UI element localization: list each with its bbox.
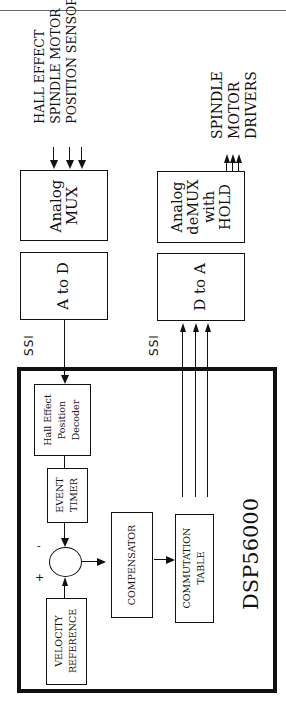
hall-effect-decoder-label: Hall Effect Position Decoder bbox=[41, 394, 83, 446]
dsp56000-label: DSP56000 bbox=[240, 498, 262, 610]
arrow-up-icon bbox=[236, 154, 242, 163]
output-line-3 bbox=[238, 162, 239, 171]
arrow-down-icon bbox=[78, 160, 86, 169]
decoder-label-2: Position bbox=[55, 394, 69, 446]
a-to-d-label: A to D bbox=[56, 262, 72, 309]
event-timer-label-1: EVENT bbox=[53, 477, 67, 512]
summer-to-compensator-line bbox=[82, 561, 98, 562]
ssi-label-input: SSI bbox=[23, 334, 36, 356]
arrow-right-icon bbox=[97, 558, 106, 566]
output-line-1 bbox=[226, 162, 227, 171]
output-label-line-3: DRIVERS bbox=[243, 71, 260, 139]
demux-label-2: deMUX bbox=[185, 179, 201, 234]
arrow-right-icon bbox=[166, 556, 175, 564]
summing-junction bbox=[49, 547, 82, 577]
output-line-2 bbox=[232, 162, 233, 171]
event-timer-label-2: TIMER bbox=[67, 477, 81, 512]
input-label-line-3: POSITION SENSOR bbox=[64, 0, 80, 124]
arrow-down-icon bbox=[61, 538, 69, 547]
arrow-down-icon bbox=[66, 160, 74, 169]
analog-mux-label-2: MUX bbox=[64, 180, 80, 233]
input-label-line-1: HALL EFFECT bbox=[32, 0, 48, 124]
demux-label-3: with bbox=[201, 179, 217, 234]
velocity-to-summer-line bbox=[64, 585, 65, 598]
commutation-table-label: COMMUTATION TABLE bbox=[180, 528, 208, 609]
arrow-up-icon bbox=[193, 323, 199, 332]
velocity-label-1: VELOCITY bbox=[52, 609, 66, 673]
analog-demux-label: Analog deMUX with HOLD bbox=[169, 179, 233, 234]
plus-sign: + bbox=[35, 571, 44, 584]
analog-mux-label: Analog MUX bbox=[48, 180, 80, 233]
ssi-label-output: SSI bbox=[148, 334, 161, 356]
minus-sign: - bbox=[37, 540, 41, 551]
velocity-reference-label: VELOCITY REFERENCE bbox=[52, 609, 80, 673]
commutation-label-2: TABLE bbox=[194, 528, 208, 609]
analog-mux-label-1: Analog bbox=[48, 180, 64, 233]
hall-sensor-input-label: HALL EFFECT SPINDLE MOTOR POSITION SENSO… bbox=[32, 0, 80, 124]
timer-to-summer-line bbox=[64, 523, 65, 539]
demux-label-1: Analog bbox=[169, 179, 185, 234]
d-to-a-label: D to A bbox=[193, 263, 209, 310]
commutation-label-1: COMMUTATION bbox=[180, 528, 194, 609]
spindle-motor-drivers-label: SPINDLE MOTOR DRIVERS bbox=[209, 71, 260, 139]
decoder-to-timer-line bbox=[64, 456, 65, 468]
output-label-line-2: MOTOR bbox=[226, 71, 243, 139]
decoder-label-1: Hall Effect bbox=[41, 394, 55, 446]
decoder-label-3: Decoder bbox=[69, 394, 83, 446]
compensator-label: COMPENSATOR bbox=[127, 525, 137, 606]
velocity-label-2: REFERENCE bbox=[66, 609, 80, 673]
input-label-line-2: SPINDLE MOTOR bbox=[48, 0, 64, 124]
arrow-down-icon bbox=[50, 160, 58, 169]
arrow-up-icon bbox=[62, 577, 68, 586]
event-timer-label: EVENT TIMER bbox=[53, 477, 81, 512]
output-label-line-1: SPINDLE bbox=[209, 71, 226, 139]
arrow-up-icon bbox=[180, 323, 186, 332]
arrow-up-icon bbox=[205, 323, 211, 332]
demux-label-4: HOLD bbox=[217, 179, 233, 234]
